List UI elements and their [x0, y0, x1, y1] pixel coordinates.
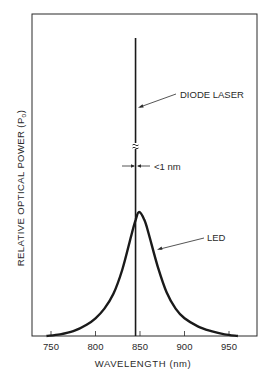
led-curve: [47, 212, 238, 336]
spectrum-chart: 750800850900950 <1 nm DIODE LASER LED WA…: [0, 0, 269, 380]
led-label: LED: [207, 232, 226, 243]
y-axis-label: RELATIVE OPTICAL POWER (Po): [15, 110, 27, 266]
x-tick-label: 950: [221, 341, 237, 352]
linewidth-annotation: <1 nm: [154, 161, 181, 172]
arrowhead-icon: [137, 164, 141, 168]
x-axis-label: WAVELENGTH (nm): [95, 358, 192, 369]
laser-pointer-line: [140, 94, 176, 107]
x-tick-label: 850: [132, 341, 148, 352]
x-tick-label: 800: [88, 341, 104, 352]
x-tick-label: 900: [177, 341, 193, 352]
arrowhead-icon: [138, 104, 144, 108]
plot-frame: [32, 14, 257, 336]
arrowhead-icon: [131, 164, 135, 168]
x-axis-tick-labels: 750800850900950: [43, 341, 237, 352]
laser-label: DIODE LASER: [180, 89, 244, 100]
x-tick-label: 750: [43, 341, 59, 352]
led-pointer-line: [160, 238, 204, 249]
x-axis-ticks: [51, 331, 229, 336]
arrowhead-icon: [157, 246, 163, 249]
